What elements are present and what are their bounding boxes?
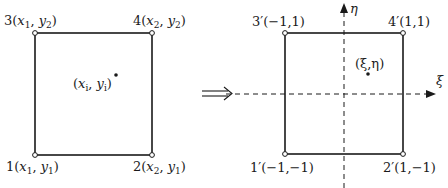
mapping-diagram <box>0 0 448 188</box>
node-3-label: 3(x1, y2) <box>4 14 57 30</box>
node-3-marker <box>33 31 38 36</box>
node-2p-marker <box>401 152 406 157</box>
node-2-marker <box>150 153 155 158</box>
node-3p-marker <box>283 31 288 36</box>
physical-point-label: (xi, yi) <box>73 77 112 93</box>
node-4p-label: 4′(1,1) <box>388 15 430 28</box>
xi-axis-arrow-icon <box>426 90 436 98</box>
reference-point-label: (ξ,η) <box>355 57 384 70</box>
reference-point-marker <box>366 72 370 76</box>
eta-axis-arrow-icon <box>340 3 348 13</box>
node-1-marker <box>33 153 38 158</box>
node-1-label: 1(x1, y1) <box>6 160 59 176</box>
eta-axis-label: η <box>350 2 358 15</box>
node-3p-label: 3′(−1,1) <box>252 15 305 28</box>
node-1p-label: 1′(−1,−1) <box>250 161 314 174</box>
node-2p-label: 2′(1,−1) <box>383 161 436 174</box>
node-4-marker <box>150 31 155 36</box>
physical-point-marker <box>114 73 118 77</box>
node-1p-marker <box>283 152 288 157</box>
node-4p-marker <box>401 31 406 36</box>
xi-axis-label: ξ <box>436 74 443 87</box>
node-2-label: 2(x2, y1) <box>133 160 186 176</box>
physical-element <box>35 33 152 155</box>
node-4-label: 4(x2, y2) <box>133 14 186 30</box>
